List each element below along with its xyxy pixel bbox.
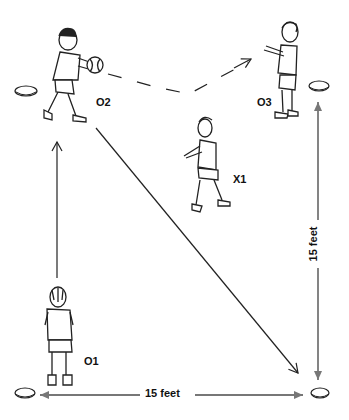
cone-bottom-right <box>311 388 329 398</box>
cone-bottom-left <box>15 388 35 398</box>
cone-top-left <box>15 86 37 96</box>
label-o2: O2 <box>96 96 111 108</box>
dimension-label-vertical: 15 feet <box>307 225 319 264</box>
player-o1-figure <box>45 287 73 385</box>
dimension-label-horizontal: 15 feet <box>142 387 183 399</box>
cone-top-right <box>309 81 329 91</box>
label-x1: X1 <box>233 173 246 185</box>
pass-arrow-o2-to-o3 <box>108 62 248 94</box>
label-o3: O3 <box>257 96 272 108</box>
label-o1: O1 <box>84 355 99 367</box>
player-o2-figure <box>44 28 103 122</box>
player-x1-figure <box>184 117 230 212</box>
cut-arrow-o2-to-corner <box>96 128 298 373</box>
drill-diagram <box>0 0 349 420</box>
pass-arrowhead <box>234 59 251 68</box>
